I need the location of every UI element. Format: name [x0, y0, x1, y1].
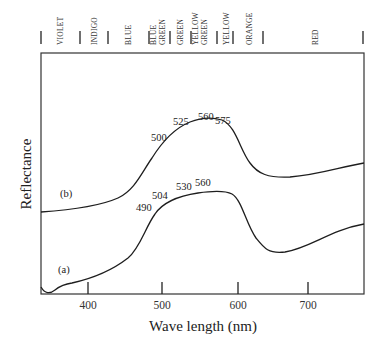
series-label-a: (a): [58, 264, 70, 276]
y-axis-title: Reflectance: [18, 138, 34, 209]
band-label-orange: ORANGE: [245, 12, 254, 45]
band-label-blue-green-1: BLUE: [149, 24, 158, 45]
point-label: 490: [136, 202, 152, 213]
band-label-yellow-green-1: YELLOW: [191, 11, 200, 45]
band-label-yellow-green-2: GREEN: [200, 19, 209, 45]
point-label: 525: [173, 116, 189, 127]
curve-a-point-labels: 490 504 530 560: [136, 177, 211, 213]
point-label: 575: [215, 115, 231, 126]
curve-b: [41, 118, 364, 212]
point-label: 504: [152, 190, 169, 201]
x-tick-label: 600: [229, 299, 247, 311]
series-label-b: (b): [60, 188, 73, 200]
band-label-blue-green-2: GREEN: [158, 19, 167, 45]
x-axis-ticks: [88, 282, 308, 294]
x-tick-label: 700: [299, 299, 317, 311]
point-label: 560: [195, 177, 211, 188]
point-label: 560: [198, 111, 214, 122]
x-axis-tick-labels: 400 500 600 700: [79, 299, 317, 311]
band-label-indigo: INDIGO: [90, 17, 99, 45]
point-label: 530: [176, 181, 192, 192]
band-label-blue: BLUE: [124, 24, 133, 45]
band-label-red: RED: [311, 29, 320, 45]
point-label: 500: [151, 132, 167, 143]
x-tick-label: 400: [79, 299, 97, 311]
reflectance-chart: VIOLET INDIGO BLUE BLUE GREEN GREEN YELL…: [0, 0, 385, 350]
band-label-green: GREEN: [176, 19, 185, 45]
curve-b-point-labels: 500 525 560 575: [151, 111, 231, 143]
band-label-violet: VIOLET: [56, 17, 65, 45]
x-axis-title: Wave length (nm): [149, 318, 257, 335]
x-tick-label: 500: [153, 299, 171, 311]
band-labels: VIOLET INDIGO BLUE BLUE GREEN GREEN YELL…: [56, 11, 320, 45]
band-label-yellow: YELLOW: [222, 11, 231, 45]
